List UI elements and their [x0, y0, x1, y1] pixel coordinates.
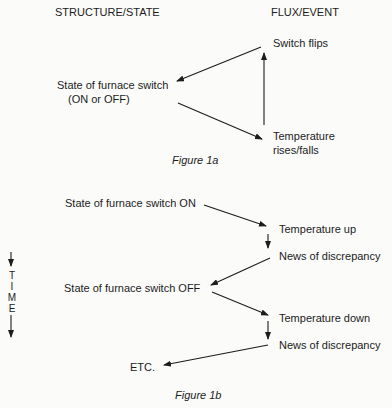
fig1b-news-1: News of discrepancy [279, 250, 381, 263]
time-axis-label: T I M E [6, 270, 18, 314]
arrow-news-to-off [211, 258, 270, 285]
arrow-state-to-temp [178, 103, 262, 139]
fig1a-rises-falls: rises/falls [273, 144, 319, 157]
time-letter: I [6, 281, 18, 292]
time-letter: T [6, 270, 18, 281]
fig1a-state-label: State of furnace switch [57, 79, 168, 92]
arrow-flip-to-state [177, 47, 261, 81]
fig1b-temperature-down: Temperature down [279, 312, 370, 325]
fig1b-news-2: News of discrepancy [279, 339, 381, 352]
fig1a-temperature: Temperature [273, 130, 335, 143]
fig1b-temperature-up: Temperature up [279, 223, 356, 236]
header-flux-event: FLUX/EVENT [271, 6, 339, 19]
arrow-off-to-temp-down [212, 292, 268, 315]
arrow-on-to-temp-up [204, 205, 266, 226]
time-letter: M [6, 292, 18, 303]
fig1a-caption: Figure 1a [172, 154, 218, 167]
fig1a-switch-flips: Switch flips [273, 37, 328, 50]
header-structure-state: STRUCTURE/STATE [55, 6, 160, 19]
fig1b-caption: Figure 1b [175, 389, 221, 402]
time-letter: E [6, 303, 18, 314]
fig1b-state-on: State of furnace switch ON [65, 197, 196, 210]
fig1b-etc: ETC. [130, 361, 155, 374]
arrow-news-to-etc [164, 345, 268, 365]
fig1a-state-sublabel: (ON or OFF) [68, 93, 130, 106]
fig1b-state-off: State of furnace switch OFF [64, 282, 200, 295]
